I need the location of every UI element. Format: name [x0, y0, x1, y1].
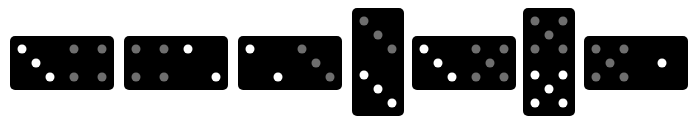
pip-icon — [558, 70, 567, 79]
right-half-4 — [62, 36, 114, 90]
pip-icon — [246, 44, 255, 53]
pip-icon — [70, 73, 79, 82]
domino-tile-1[interactable] — [10, 36, 114, 90]
pip-icon — [619, 44, 628, 53]
pip-icon — [374, 31, 383, 40]
bottom-half-5 — [523, 62, 575, 116]
pip-icon — [360, 16, 369, 25]
left-half-4 — [124, 36, 176, 90]
pip-icon — [499, 73, 508, 82]
domino-tile-5[interactable] — [412, 36, 516, 90]
pip-icon — [545, 31, 554, 40]
pip-icon — [606, 59, 615, 68]
pip-icon — [531, 45, 540, 54]
pip-icon — [531, 99, 540, 108]
pip-icon — [325, 73, 334, 82]
pip-icon — [658, 59, 667, 68]
pip-icon — [472, 44, 481, 53]
pip-icon — [18, 44, 27, 53]
pip-icon — [558, 99, 567, 108]
right-half-1 — [636, 36, 688, 90]
pip-icon — [70, 44, 79, 53]
pip-icon — [298, 44, 307, 53]
pip-icon — [558, 45, 567, 54]
left-half-5 — [584, 36, 636, 90]
pip-icon — [97, 73, 106, 82]
pip-icon — [531, 70, 540, 79]
domino-tile-4[interactable] — [352, 8, 404, 116]
pip-icon — [472, 73, 481, 82]
top-half-3 — [352, 8, 404, 62]
pip-icon — [32, 59, 41, 68]
pip-icon — [273, 73, 282, 82]
pip-icon — [619, 73, 628, 82]
pip-icon — [447, 73, 456, 82]
pip-icon — [45, 73, 54, 82]
pip-icon — [312, 59, 321, 68]
pip-icon — [531, 16, 540, 25]
left-half-2 — [238, 36, 290, 90]
pip-icon — [434, 59, 443, 68]
pip-icon — [360, 70, 369, 79]
pip-icon — [486, 59, 495, 68]
pip-icon — [420, 44, 429, 53]
pip-icon — [545, 85, 554, 94]
pip-icon — [211, 73, 220, 82]
domino-tile-6[interactable] — [523, 8, 575, 116]
pip-icon — [499, 44, 508, 53]
top-half-5 — [523, 8, 575, 62]
pip-icon — [132, 44, 141, 53]
domino-tile-3[interactable] — [238, 36, 342, 90]
pip-icon — [387, 45, 396, 54]
pip-icon — [558, 16, 567, 25]
right-half-3 — [290, 36, 342, 90]
pip-icon — [387, 99, 396, 108]
domino-tile-2[interactable] — [124, 36, 228, 90]
right-half-2 — [176, 36, 228, 90]
right-half-5 — [464, 36, 516, 90]
pip-icon — [184, 44, 193, 53]
pip-icon — [592, 44, 601, 53]
pip-icon — [159, 73, 168, 82]
pip-icon — [132, 73, 141, 82]
domino-tile-7[interactable] — [584, 36, 688, 90]
left-half-3 — [412, 36, 464, 90]
pip-icon — [374, 85, 383, 94]
bottom-half-3 — [352, 62, 404, 116]
pip-icon — [592, 73, 601, 82]
pip-icon — [159, 44, 168, 53]
left-half-3 — [10, 36, 62, 90]
pip-icon — [97, 44, 106, 53]
